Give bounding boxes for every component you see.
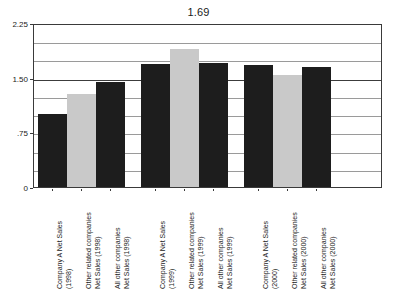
x-tick-mark [287, 189, 288, 191]
x-axis-label-line: (2000) [270, 189, 279, 289]
x-tick-mark [110, 189, 111, 191]
x-tick-mark [213, 189, 214, 191]
x-tick-mark [316, 189, 317, 191]
bar-other-related-1998 [67, 94, 96, 187]
y-axis: 2.251.50.750 [0, 0, 33, 298]
x-axis-label-line: Other related companies [85, 189, 94, 289]
x-axis: Company A Net Sales(1998)Other related c… [33, 189, 382, 298]
x-axis-label-line: Other related companies [188, 189, 197, 289]
bars-layer [34, 25, 381, 187]
x-axis-label-line: Company A Net Sales [159, 189, 168, 289]
x-tick-mark [184, 189, 185, 191]
x-axis-label-line: Company A Net Sales [56, 189, 65, 289]
x-axis-label: Other related companiesNet Sales (1999) [188, 189, 205, 289]
x-axis-label-line: Company A Net Sales [262, 189, 271, 289]
chart-title: 1.69 [0, 6, 397, 18]
bar-all-other-1999 [199, 63, 228, 187]
x-axis-label-line: Net Sales (1999) [196, 189, 205, 289]
y-tick-label: .75 [17, 129, 28, 138]
x-axis-label-line: All other companies [320, 189, 329, 289]
x-axis-label: Other related companiesNet Sales (2000) [291, 189, 308, 289]
bar-chart: 1.69 2.251.50.750 Company A Net Sales(19… [0, 0, 397, 298]
x-tick-mark [258, 189, 259, 191]
x-tick-mark [81, 189, 82, 191]
x-axis-label: Other related companiesNet Sales (1998) [85, 189, 102, 289]
x-tick-mark [155, 189, 156, 191]
bar-other-related-2000 [273, 75, 302, 187]
x-axis-label-line: Net Sales (1999) [225, 189, 234, 289]
y-tick-label: 2.25 [12, 20, 28, 29]
x-axis-label-line: All other companies [114, 189, 123, 289]
x-axis-label: Company A Net Sales(2000) [262, 189, 279, 289]
bar-company-a-1999 [141, 64, 170, 187]
x-axis-label: Company A Net Sales(1999) [159, 189, 176, 289]
bar-all-other-1998 [96, 82, 125, 187]
y-tick-label: 0 [24, 184, 28, 193]
x-tick-mark [52, 189, 53, 191]
x-axis-label-line: Net Sales (2000) [299, 189, 308, 289]
x-axis-label-line: Net Sales (1998) [122, 189, 131, 289]
x-axis-label: All other companiesNet Sales (1999) [217, 189, 234, 289]
bar-all-other-2000 [302, 67, 331, 187]
bar-company-a-2000 [244, 65, 273, 187]
x-axis-label-line: (1999) [167, 189, 176, 289]
bar-company-a-1998 [38, 114, 67, 187]
y-tick-label: 1.50 [12, 74, 28, 83]
bar-other-related-1999 [170, 49, 199, 187]
x-axis-label-line: All other companies [217, 189, 226, 289]
x-axis-label-line: Net Sales (1998) [93, 189, 102, 289]
x-axis-label-line: Net Sales (2000) [328, 189, 337, 289]
plot-area [33, 24, 382, 188]
x-axis-label: All other companiesNet Sales (2000) [320, 189, 337, 289]
x-axis-label: Company A Net Sales(1998) [56, 189, 73, 289]
x-axis-label-line: Other related companies [291, 189, 300, 289]
x-axis-label: All other companiesNet Sales (1998) [114, 189, 131, 289]
x-axis-label-line: (1998) [64, 189, 73, 289]
